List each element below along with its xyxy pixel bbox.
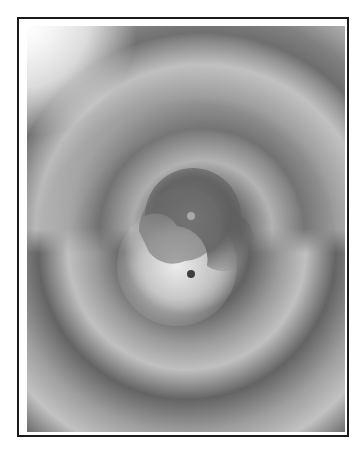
- image-frame: [17, 17, 349, 437]
- spiral-graphic: [27, 26, 345, 432]
- spiral-illusion-image: [27, 26, 345, 432]
- corner-highlight: [27, 26, 345, 432]
